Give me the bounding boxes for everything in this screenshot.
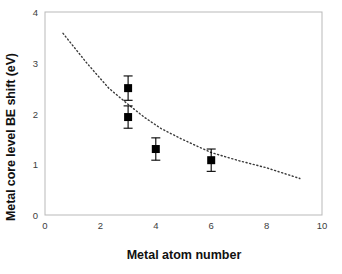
data-point	[124, 76, 133, 100]
trend-line-path	[63, 33, 300, 178]
trend-line	[63, 33, 300, 178]
chart-figure: Metal core level BE shift (eV) 0 1 2 3 4…	[0, 0, 342, 274]
data-point	[124, 106, 133, 128]
data-point	[207, 149, 216, 171]
plot-border	[45, 12, 322, 215]
data-series-points	[124, 76, 216, 171]
plot-frame	[45, 12, 322, 215]
plot-canvas	[0, 0, 342, 274]
data-point	[151, 138, 160, 160]
